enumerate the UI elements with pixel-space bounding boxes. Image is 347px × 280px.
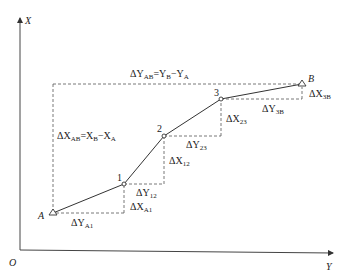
point-2-label: 2: [157, 123, 162, 134]
point-3-circle-icon: [219, 97, 223, 101]
coordinate-increment-diagram: X Y O A 1 2 3 B ΔYAB=YB−YA ΔXAB=XB−XA ΔY…: [0, 0, 347, 280]
point-b-label: B: [308, 73, 314, 84]
delta-y-12-label: ΔY12: [136, 187, 157, 200]
delta-y-3b-label: ΔY3B: [262, 103, 284, 116]
delta-x-23-label: ΔX23: [226, 113, 247, 126]
y-axis-label: Y: [326, 261, 333, 272]
delta-y-a1-label: ΔYA1: [71, 217, 94, 230]
delta-y-23-label: ΔY23: [186, 139, 207, 152]
delta-x-12-label: ΔX12: [169, 155, 190, 168]
delta-x-ab-label: ΔXAB=XB−XA: [57, 130, 116, 143]
point-3-label: 3: [214, 87, 219, 98]
delta-y-ab-label: ΔYAB=YB−YA: [130, 68, 189, 81]
point-a-label: A: [37, 210, 45, 221]
delta-x-3b-label: ΔX3B: [309, 88, 331, 101]
point-1-label: 1: [117, 172, 122, 183]
point-2-circle-icon: [162, 134, 166, 138]
point-b-triangle-icon: [298, 80, 306, 86]
y-axis: [20, 250, 333, 253]
origin-label: O: [9, 257, 16, 268]
delta-x-a1-label: ΔXA1: [130, 201, 153, 214]
x-axis-label: X: [24, 15, 32, 26]
point-1-circle-icon: [122, 182, 126, 186]
